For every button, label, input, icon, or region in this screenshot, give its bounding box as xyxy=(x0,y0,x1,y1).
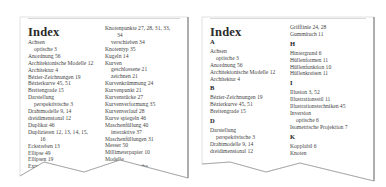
index-entry: Breitengrade 15 xyxy=(210,108,275,115)
section-letter: K xyxy=(290,134,347,141)
index-column-1: AAchsenoptische 3Anordnung 56Architekton… xyxy=(210,36,275,155)
index-entry: Drahtmodelle 9, 14 xyxy=(210,141,275,148)
index-entry: Bézier-Zeichnungen 19 xyxy=(210,94,275,101)
index-entry: Eckstreben 13 xyxy=(28,143,93,150)
index-entry: Ellipse 49 xyxy=(28,150,93,157)
section-letter: H xyxy=(290,41,347,48)
index-entry: Architektonische Modelle 12 xyxy=(28,60,93,67)
index-entry: Darstellung xyxy=(28,94,93,101)
index-entry: Inversion xyxy=(290,110,347,117)
section-letter: I xyxy=(290,80,347,87)
section-letter: B xyxy=(210,85,275,92)
index-entry: Bézierkurve 45, 51 xyxy=(28,80,93,87)
index-entry: Millimeterpapier 10 xyxy=(105,149,170,156)
index-entry: Architektur 4 xyxy=(28,67,93,74)
index-entry: verschieben 34 xyxy=(105,39,170,46)
index-entry: Hintergrund 6 xyxy=(290,50,347,57)
index-entry: Knotenpunkte 27, 28, 31, 33, xyxy=(105,25,170,32)
index-entry: Kopplabil 6 xyxy=(290,143,347,150)
index-entry: 34 xyxy=(105,32,170,39)
index-entry: Gummituch 11 xyxy=(290,31,347,38)
index-entry: Darstellung xyxy=(210,127,275,134)
index-entry: Achsen xyxy=(28,39,93,46)
index-page-sectioned: Index AAchsenoptische 3Anordnung 56Archi… xyxy=(190,0,386,187)
index-column-1: Achsenoptische 3Anordnung 56Architektoni… xyxy=(28,39,93,177)
index-entry: interaktive 37 xyxy=(105,129,170,136)
index-entry: Kurvenverlauf 28 xyxy=(105,108,170,115)
index-entry: Maschenfüllung 40 xyxy=(105,122,170,129)
index-entry: 16 xyxy=(28,136,93,143)
index-entry: Duplikat 46 xyxy=(28,122,93,129)
index-entry: perspektivische 3 xyxy=(28,101,93,108)
index-column-2: Grifflinie 24, 28Gummituch 11HHintergrun… xyxy=(290,24,347,156)
index-entry: Breitengrade 15 xyxy=(28,87,93,94)
index-entry: optische 6 xyxy=(290,117,347,124)
index-entry: Anordnung 56 xyxy=(210,62,275,69)
index-entry: Architektur 4 xyxy=(210,76,275,83)
index-entry: Messer 50 xyxy=(105,142,170,149)
index-entry: Hüllenkreisen 11 xyxy=(290,70,347,77)
index-entry: Bézier-Zeichnungen 19 xyxy=(28,74,93,81)
index-entry: Illustrationsstil 11 xyxy=(290,96,347,103)
index-entry: Kurve spiegeln 46 xyxy=(105,115,170,122)
index-entry: Kurvenpunkt 21 xyxy=(105,87,170,94)
index-entry: Kurven xyxy=(105,60,170,67)
index-entry: Knoten xyxy=(290,150,347,157)
index-entry: Kurvenkrümmung 24 xyxy=(105,80,170,87)
index-entry: Hüllenformen 11 xyxy=(290,57,347,64)
index-entry: Architektonische Modelle 12 xyxy=(210,69,275,76)
index-entry: Kurvenverformung 35 xyxy=(105,101,170,108)
index-entry: dreidimensional 12 xyxy=(28,115,93,122)
index-column-2: Knotenpunkte 27, 28, 31, 33,34verschiebe… xyxy=(105,25,170,170)
section-letter: A xyxy=(210,39,275,46)
index-entry: Duplizieren 12, 13, 14, 15, xyxy=(28,129,93,136)
index-entry: Knotentyp 35 xyxy=(105,46,170,53)
index-entry: Maschenfüllungen 31 xyxy=(105,136,170,143)
section-letter: D xyxy=(210,118,275,125)
index-entry: dreidimensional 12 xyxy=(210,148,275,155)
index-entry: Drahtmodelle 9, 14 xyxy=(28,108,93,115)
index-entry: Kugeln 14 xyxy=(105,53,170,60)
index-entry: Grifflinie 24, 28 xyxy=(290,24,347,31)
index-entry: Anordnung 56 xyxy=(28,53,93,60)
index-entry: Illusion 3, 52 xyxy=(290,89,347,96)
index-entry: Bézierkurve 45, 51 xyxy=(210,101,275,108)
index-page-plain: Index Achsenoptische 3Anordnung 56Archit… xyxy=(0,0,190,187)
index-entry: perspektivische 3 xyxy=(210,134,275,141)
index-entry: Achsen xyxy=(210,48,275,55)
index-entry: Kurvenstücke 27 xyxy=(105,94,170,101)
index-entry: Isometrische Projektion 7 xyxy=(290,124,347,131)
index-entry: zeichnen 21 xyxy=(105,73,170,80)
index-entry: optische 3 xyxy=(28,46,93,53)
index-entry: geschlossene 21 xyxy=(105,66,170,73)
index-title: Index xyxy=(28,25,60,40)
index-entry: Ellipsen 19 xyxy=(28,156,93,163)
index-entry: optische 3 xyxy=(210,55,275,62)
index-entry: Hüllenfunktion 10 xyxy=(290,64,347,71)
index-entry: Illustrationstechniken 45 xyxy=(290,103,347,110)
